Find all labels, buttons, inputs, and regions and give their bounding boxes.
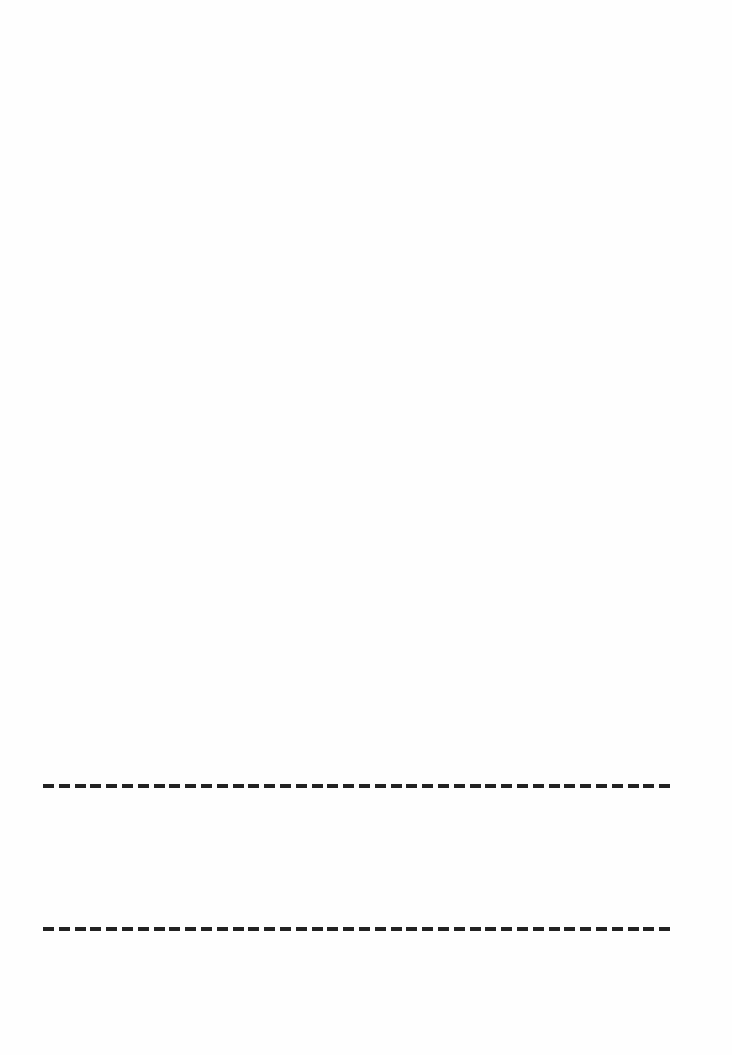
dashed-divider-bottom [43,927,675,931]
blank-writing-area [43,788,675,927]
document-page [0,0,732,1055]
